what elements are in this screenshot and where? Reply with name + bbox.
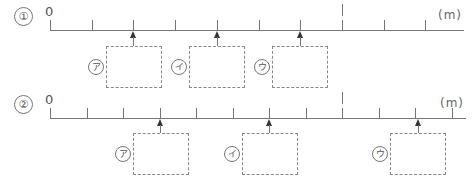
tick-mark xyxy=(196,108,197,118)
tick-mark xyxy=(342,108,343,118)
tick-mark xyxy=(50,20,51,30)
zero-label: 0 xyxy=(45,92,53,107)
tick-mark xyxy=(123,108,124,118)
major-tick xyxy=(342,92,343,104)
blank-label: ウ xyxy=(372,146,388,162)
zero-label: 0 xyxy=(45,4,53,19)
tick-mark xyxy=(306,108,307,118)
arrow-shaft xyxy=(160,125,161,133)
major-tick xyxy=(342,4,343,16)
tick-mark xyxy=(175,20,176,30)
tick-mark xyxy=(415,108,416,118)
tick-mark xyxy=(379,108,380,118)
tick-mark xyxy=(133,20,134,30)
tick-mark xyxy=(384,20,385,30)
answer-box-イ[interactable] xyxy=(242,133,298,175)
tick-mark xyxy=(300,20,301,30)
tick-mark xyxy=(87,108,88,118)
tick-mark xyxy=(160,108,161,118)
arrow-shaft xyxy=(300,37,301,46)
tick-mark xyxy=(50,108,51,118)
arrow-shaft xyxy=(133,37,134,46)
tick-mark xyxy=(92,20,93,30)
number-line-axis xyxy=(50,118,466,119)
answer-box-ウ[interactable] xyxy=(272,46,328,88)
blank-label: ア xyxy=(88,59,104,75)
tick-mark xyxy=(217,20,218,30)
problem-number: ② xyxy=(14,95,33,114)
tick-mark xyxy=(259,20,260,30)
tick-mark xyxy=(269,108,270,118)
arrow-shaft xyxy=(418,125,419,133)
tick-mark xyxy=(342,20,343,30)
number-line-axis xyxy=(50,30,464,31)
blank-label: ア xyxy=(115,146,131,162)
blank-label: イ xyxy=(224,146,240,162)
tick-mark xyxy=(452,108,453,118)
tick-mark xyxy=(233,108,234,118)
blank-label: イ xyxy=(171,59,187,75)
problem-number: ① xyxy=(14,7,33,26)
tick-mark xyxy=(425,20,426,30)
arrow-shaft xyxy=(217,37,218,46)
arrow-shaft xyxy=(269,125,270,133)
answer-box-ア[interactable] xyxy=(133,133,189,175)
answer-box-ア[interactable] xyxy=(106,46,162,88)
answer-box-ウ[interactable] xyxy=(390,133,446,175)
answer-box-イ[interactable] xyxy=(189,46,245,88)
unit-label: (m) xyxy=(438,8,462,22)
blank-label: ウ xyxy=(254,59,270,75)
